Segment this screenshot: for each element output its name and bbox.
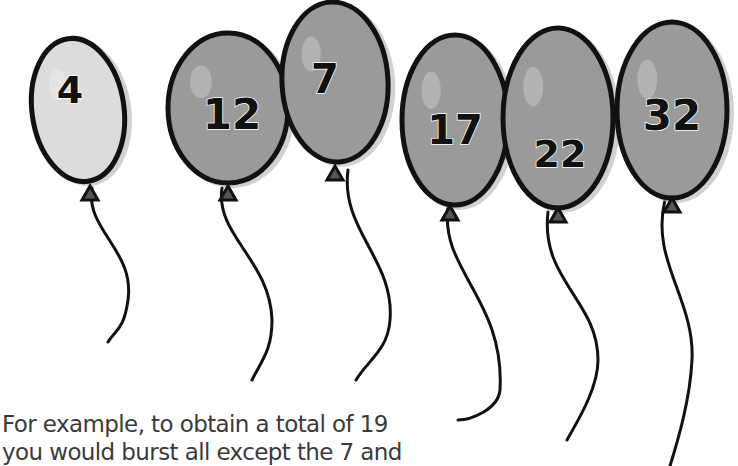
balloon-string <box>547 212 598 440</box>
balloon-12[interactable]: 12 <box>168 33 295 200</box>
balloon-number: 22 <box>534 132 587 176</box>
balloon-string <box>91 188 128 342</box>
balloon-string <box>662 200 692 466</box>
balloon-number: 32 <box>643 91 701 140</box>
balloon-knot <box>82 186 98 200</box>
balloon-body <box>503 28 613 208</box>
balloon-string <box>347 170 390 380</box>
balloon-17[interactable]: 17 <box>402 35 515 220</box>
balloon-string <box>221 188 272 380</box>
balloon-number: 7 <box>311 56 339 102</box>
balloon-number: 4 <box>57 68 83 112</box>
balloon-string <box>447 208 500 420</box>
balloon-7[interactable]: 7 <box>278 0 399 180</box>
balloon-32[interactable]: 32 <box>617 22 734 212</box>
balloon-4[interactable]: 4 <box>22 32 141 200</box>
example-caption: For example, to obtain a total of 19 you… <box>2 410 402 466</box>
balloon-number: 17 <box>427 107 483 153</box>
caption-line-2: you would burst all except the 7 and <box>2 438 402 466</box>
balloon-illustration: 4127172232 <box>0 0 738 466</box>
caption-line-1: For example, to obtain a total of 19 <box>2 410 402 438</box>
balloon-22[interactable]: 22 <box>503 28 620 222</box>
balloon-knot <box>327 166 343 180</box>
balloon-number: 12 <box>203 90 261 139</box>
